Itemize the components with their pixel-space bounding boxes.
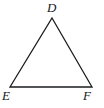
vertex-label-f: F [83, 89, 91, 102]
vertex-label-d: D [47, 1, 56, 14]
geometry-figure: D E F [0, 0, 104, 108]
triangle-outline [10, 18, 92, 87]
vertex-label-e: E [2, 89, 10, 102]
